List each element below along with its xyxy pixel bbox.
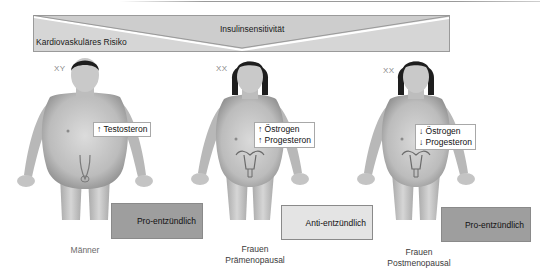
hormone-box-postmenopausal: ↓ Östrogen ↓ Progesteron [415, 124, 476, 150]
insulin-sensitivity-label: Insulinsensitivität [220, 24, 284, 34]
hormone-estrogen-down: ↓ Östrogen [419, 126, 472, 137]
inflammation-box-postmenopausal: Pro-entzündlich [441, 207, 531, 242]
caption-postmenopausal-line-2: Postmenopausal [374, 258, 464, 269]
hormone-progesterone-up: ↑ Progesteron [258, 135, 311, 146]
male-body-illustration [10, 55, 160, 220]
caption-premenopausal-line-1: Frauen [215, 244, 295, 255]
trend-banner: Insulinsensitivität Kardiovaskuläres Ris… [33, 15, 450, 52]
caption-premenopausal-line-2: Prämenopausal [215, 255, 295, 266]
hormone-box-men: ↑ Testosteron [93, 122, 151, 137]
hormone-estrogen-up: ↑ Östrogen [258, 124, 311, 135]
hormone-testosterone: ↑ Testosteron [97, 124, 147, 135]
hormone-box-premenopausal: ↑ Östrogen ↑ Progesteron [254, 122, 315, 148]
cardiovascular-risk-label: Kardiovaskuläres Risiko [36, 37, 127, 47]
caption-men: Männer [60, 245, 110, 256]
hormone-progesterone-down: ↓ Progesteron [419, 137, 472, 148]
caption-postmenopausal: Frauen Postmenopausal [374, 247, 464, 269]
inflammation-label-postmenopausal: Pro-entzündlich [465, 220, 524, 230]
caption-men-line-1: Männer [60, 245, 110, 256]
caption-postmenopausal-line-1: Frauen [374, 247, 464, 258]
caption-premenopausal: Frauen Prämenopausal [215, 244, 295, 266]
top-divider-line [120, 1, 540, 2]
